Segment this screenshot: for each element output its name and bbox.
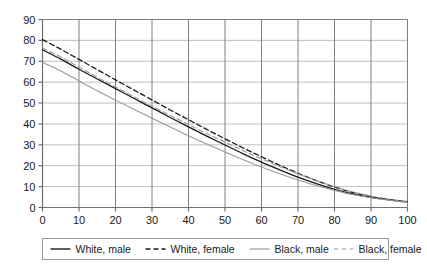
vertical-gridlines: [79, 20, 371, 208]
legend-item-label: Black, male: [275, 243, 329, 255]
chart-legend: White, maleWhite, femaleBlack, maleBlack…: [43, 239, 422, 260]
y-tick-label: 20: [23, 160, 35, 172]
x-tick-label: 80: [328, 214, 340, 226]
y-tick-label: 70: [23, 55, 35, 67]
x-tick-label: 70: [292, 214, 304, 226]
axis-ticks: [39, 20, 408, 212]
x-tick-label: 100: [398, 214, 416, 226]
y-tick-label: 50: [23, 97, 35, 109]
y-tick-label: 40: [23, 118, 35, 130]
y-tick-label: 80: [23, 34, 35, 46]
y-tick-label: 30: [23, 139, 35, 151]
x-tick-label: 20: [109, 214, 121, 226]
y-axis-tick-labels: 0102030405060708090: [23, 14, 35, 214]
x-tick-label: 60: [255, 214, 267, 226]
x-axis-tick-labels: 0102030405060708090100: [39, 214, 416, 226]
legend-item-label: White, male: [76, 243, 132, 255]
line-chart: 0102030405060708090 01020304050607080901…: [0, 0, 427, 276]
y-tick-label: 90: [23, 14, 35, 26]
chart-container: 0102030405060708090 01020304050607080901…: [0, 0, 427, 276]
x-tick-label: 10: [73, 214, 85, 226]
y-tick-label: 10: [23, 181, 35, 193]
x-tick-label: 40: [182, 214, 194, 226]
y-tick-label: 60: [23, 76, 35, 88]
x-tick-label: 30: [146, 214, 158, 226]
x-tick-label: 0: [39, 214, 45, 226]
y-tick-label: 0: [29, 202, 35, 214]
x-tick-label: 50: [219, 214, 231, 226]
x-tick-label: 90: [365, 214, 377, 226]
legend-item-label: Black, female: [359, 243, 422, 255]
legend-item-label: White, female: [171, 243, 235, 255]
